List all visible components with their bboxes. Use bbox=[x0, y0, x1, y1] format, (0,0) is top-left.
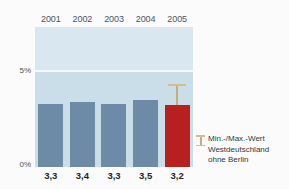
bar-2003[interactable] bbox=[101, 104, 126, 167]
bar-2001[interactable] bbox=[38, 104, 63, 167]
bar-value-2003: 3,3 bbox=[98, 169, 130, 183]
x-axis-tick-label: 2002 bbox=[67, 13, 99, 26]
bar-value-2005: 3,2 bbox=[161, 169, 193, 183]
bar-2005[interactable] bbox=[165, 105, 190, 167]
x-axis-tick-label: 2001 bbox=[35, 13, 67, 26]
bar-2004[interactable] bbox=[133, 100, 158, 167]
x-axis-tick-label: 2004 bbox=[130, 13, 162, 26]
x-axis-tick-label: 2005 bbox=[161, 13, 193, 26]
legend-label: Min.-/Max.-Wert Westdeutschland ohne Ber… bbox=[208, 134, 269, 166]
y-axis-tick-label-5: 5% bbox=[9, 66, 31, 75]
bar-slot-2002 bbox=[67, 27, 99, 167]
bar-value-2004: 3,5 bbox=[130, 169, 162, 183]
bar-slot-2004 bbox=[130, 27, 162, 167]
error-bar-icon-cap-top bbox=[196, 135, 205, 137]
error-bar-cap-max bbox=[168, 84, 186, 86]
bar-value-2001: 3,3 bbox=[35, 169, 67, 183]
bar-2002[interactable] bbox=[70, 102, 95, 167]
bar-value-labels: 3,3 3,4 3,3 3,5 3,2 bbox=[35, 169, 193, 183]
error-bar-icon-cap-bottom bbox=[196, 145, 205, 147]
y-axis-tick-label-0: 0% bbox=[9, 160, 31, 169]
error-bar-icon bbox=[196, 135, 205, 146]
x-axis-tick-label: 2003 bbox=[98, 13, 130, 26]
legend: Min.-/Max.-Wert Westdeutschland ohne Ber… bbox=[196, 134, 288, 166]
bar-slot-2003 bbox=[98, 27, 130, 167]
x-axis-category-labels: 2001 2002 2003 2004 2005 bbox=[35, 13, 193, 26]
bar-slot-2001 bbox=[35, 27, 67, 167]
plot-area bbox=[35, 27, 193, 167]
bar-group bbox=[35, 27, 193, 167]
bar-value-2002: 3,4 bbox=[67, 169, 99, 183]
chart-container: 2001 2002 2003 2004 2005 5% 0% bbox=[0, 0, 289, 189]
bar-slot-2005 bbox=[161, 27, 193, 167]
